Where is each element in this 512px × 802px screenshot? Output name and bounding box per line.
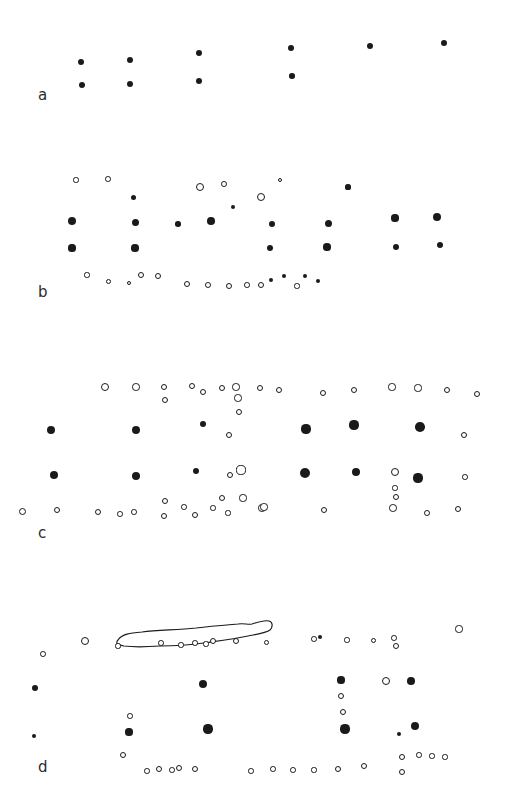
open-circle-marker — [455, 625, 462, 632]
filled-dot-marker — [318, 635, 322, 639]
filled-dot-marker — [411, 722, 420, 731]
open-circle-marker — [144, 768, 150, 774]
filled-dot-marker — [397, 732, 402, 737]
open-circle-marker — [391, 635, 397, 641]
open-circle-marker — [210, 638, 216, 644]
panel-d: d — [0, 0, 512, 802]
open-circle-marker — [192, 766, 198, 772]
open-circle-marker — [340, 709, 347, 716]
open-circle-marker — [178, 642, 183, 647]
open-circle-marker — [382, 677, 390, 685]
open-circle-marker — [158, 640, 164, 646]
filled-dot-marker — [407, 677, 415, 685]
open-circle-marker — [192, 640, 198, 646]
open-circle-marker — [176, 765, 182, 771]
open-circle-marker — [335, 766, 341, 772]
open-circle-marker — [344, 637, 349, 642]
open-circle-marker — [361, 763, 367, 769]
open-circle-marker — [156, 766, 162, 772]
open-circle-marker — [393, 643, 399, 649]
filled-dot-marker — [337, 676, 344, 683]
panel-label-d: d — [38, 760, 48, 775]
open-circle-marker — [169, 767, 175, 773]
open-circle-marker — [81, 637, 89, 645]
open-circle-marker — [311, 767, 316, 772]
open-circle-marker — [115, 643, 120, 648]
open-circle-marker — [442, 754, 447, 759]
open-circle-marker — [248, 768, 254, 774]
filled-dot-marker — [340, 724, 349, 733]
filled-dot-marker — [32, 685, 38, 691]
figure-root: abcd — [0, 0, 512, 802]
open-circle-marker — [127, 713, 133, 719]
filled-dot-marker — [199, 680, 208, 689]
open-circle-marker — [399, 769, 405, 775]
open-circle-marker — [203, 641, 208, 646]
open-circle-marker — [233, 638, 239, 644]
filled-dot-marker — [125, 728, 132, 735]
open-circle-marker — [264, 640, 269, 645]
open-circle-marker — [311, 636, 317, 642]
open-circle-marker — [120, 752, 127, 759]
open-circle-marker — [416, 752, 422, 758]
open-circle-marker — [290, 767, 296, 773]
open-circle-marker — [40, 651, 46, 657]
filled-dot-marker — [203, 724, 212, 733]
open-circle-marker — [338, 693, 345, 700]
open-circle-marker — [270, 766, 276, 772]
open-circle-marker — [429, 753, 434, 758]
filled-dot-marker — [32, 734, 37, 739]
open-circle-marker — [399, 754, 405, 760]
open-circle-marker — [371, 638, 376, 643]
elongated-outline-annotation — [0, 0, 512, 802]
